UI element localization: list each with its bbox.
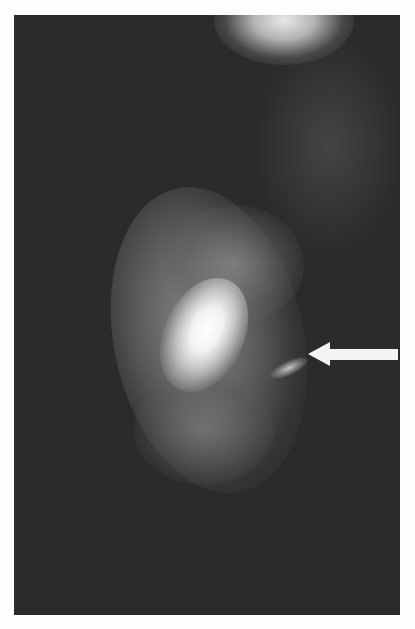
lower-tissue	[134, 375, 274, 485]
radiograph-image	[14, 15, 400, 615]
arrow-left-icon	[308, 341, 400, 367]
